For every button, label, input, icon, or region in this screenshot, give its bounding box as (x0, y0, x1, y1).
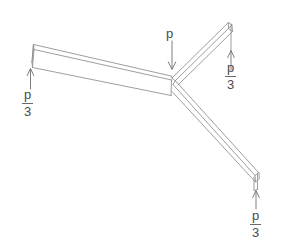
left-arm-top-front-edge (34, 50, 172, 81)
load-arrow-p (168, 41, 175, 70)
left-arm-bottom-front-edge (33, 68, 172, 96)
reaction-upper-right-numerator: p (225, 61, 236, 76)
junction-front-web (171, 80, 172, 96)
reaction-label-lower-right: p 3 (250, 209, 261, 239)
reaction-left-numerator: p (22, 88, 33, 103)
reaction-label-upper-right: p 3 (225, 61, 236, 91)
junction-inner-seam (173, 81, 176, 85)
beam-lower-right-arm (172, 82, 259, 191)
reaction-upper-right-denominator: 3 (225, 77, 236, 92)
lower-right-end-cap (255, 173, 259, 183)
upper-right-top-front-edge (176, 25, 233, 81)
reaction-left-denominator: 3 (22, 104, 33, 119)
diagram-canvas: p p 3 p 3 p 3 (0, 0, 287, 243)
reaction-arrow-left (27, 69, 34, 90)
reaction-lower-right-denominator: 3 (250, 225, 261, 240)
lower-right-bottom-front-edge (172, 92, 256, 183)
beam-upper-right-arm (172, 23, 233, 86)
lower-right-top-front-edge (173, 85, 255, 176)
left-arm-top-back-edge (34, 45, 172, 77)
lower-right-top-back-edge (177, 82, 259, 173)
reaction-label-left: p 3 (22, 88, 33, 118)
reaction-arrow-lower-right (253, 191, 260, 210)
reaction-lower-right-numerator: p (250, 209, 261, 224)
upper-right-top-back-edge (172, 23, 229, 79)
load-label-p: p (166, 27, 173, 40)
beam-structure-drawing (0, 0, 287, 243)
beam-left-arm (32, 45, 172, 96)
